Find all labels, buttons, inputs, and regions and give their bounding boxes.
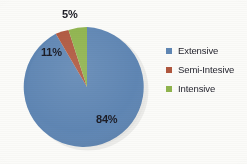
pie-label-semi-intensive: 11% (41, 46, 62, 58)
pie-chart-plot-area: 5% 11% 84% (0, 0, 160, 164)
pie-chart-svg (0, 0, 160, 164)
pie-label-intensive: 5% (62, 8, 78, 20)
legend-label-semi-intensive: Semi-Intesive (178, 65, 234, 75)
legend-item-intensive[interactable]: Intensive (166, 79, 247, 98)
legend-item-semi-intensive[interactable]: Semi-Intesive (166, 60, 247, 79)
pie-shading-overlay (27, 27, 147, 147)
legend-swatch-intensive (166, 86, 172, 92)
legend-label-extensive: Extensive (178, 46, 218, 56)
pie-chart-figure: 5% 11% 84% Extensive Semi-Intesive Inten… (0, 0, 247, 164)
legend-label-intensive: Intensive (178, 84, 215, 94)
pie-label-extensive: 84% (96, 113, 117, 125)
legend-swatch-semi-intensive (166, 67, 172, 73)
chart-legend: Extensive Semi-Intesive Intensive (166, 41, 247, 98)
legend-swatch-extensive (166, 48, 172, 54)
legend-item-extensive[interactable]: Extensive (166, 41, 247, 60)
